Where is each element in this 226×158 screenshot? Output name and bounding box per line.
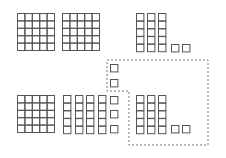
top-ten-rods xyxy=(137,14,166,52)
unit-cube xyxy=(183,126,190,133)
highlight-unit-cubes xyxy=(172,126,190,133)
unit-cube xyxy=(183,45,190,52)
hundred-flat xyxy=(18,14,55,51)
hundred-flat xyxy=(63,14,100,51)
ten-rod xyxy=(159,14,166,52)
unit-cube xyxy=(172,126,179,133)
unit-cube xyxy=(111,111,118,118)
unit-cube xyxy=(111,80,118,87)
ten-rod xyxy=(64,96,71,134)
ten-rod xyxy=(148,96,155,134)
highlight-unit-cubes-upper xyxy=(111,65,118,87)
unit-cube xyxy=(111,65,118,72)
hundred-flat xyxy=(18,96,55,133)
bottom-hundred-flats xyxy=(18,96,55,133)
ten-rod xyxy=(137,14,144,52)
top-unit-cubes xyxy=(172,45,190,52)
ten-rod xyxy=(148,14,155,52)
ten-rod xyxy=(137,96,144,134)
ten-rod xyxy=(159,96,166,134)
dashed-highlight-outline xyxy=(107,60,208,145)
top-hundred-flats xyxy=(18,14,100,51)
unit-cube xyxy=(172,45,179,52)
unit-cube xyxy=(111,126,118,133)
ten-rod xyxy=(76,96,83,134)
bottom-ten-rods xyxy=(64,96,106,134)
unit-cube xyxy=(111,97,118,104)
bottom-unit-cubes-column xyxy=(111,97,118,133)
ten-rod xyxy=(99,96,106,134)
highlight-ten-rods xyxy=(137,96,166,134)
ten-rod xyxy=(87,96,94,134)
base-ten-blocks-diagram xyxy=(0,0,226,158)
